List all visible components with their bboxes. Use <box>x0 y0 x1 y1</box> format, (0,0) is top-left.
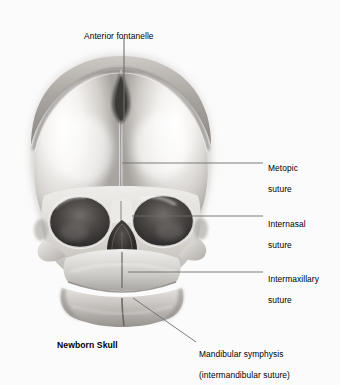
frontal-eminence-left <box>55 116 113 184</box>
label-intermaxillary-suture: Intermaxillary suture <box>268 263 319 316</box>
frontal-eminence-right <box>133 114 187 180</box>
label-internasal-suture: Internasal suture <box>268 208 306 261</box>
label-intermaxillary-suture-line2: suture <box>268 295 319 306</box>
label-anterior-fontanelle-line1: Anterior fontanelle <box>84 31 154 41</box>
orbit-right-inner-light <box>156 222 184 240</box>
orbit-left-inner-light <box>60 223 88 241</box>
label-intermaxillary-suture-line1: Intermaxillary <box>268 274 319 285</box>
label-internasal-suture-line1: Internasal <box>268 219 306 230</box>
label-metopic-suture: Metopic suture <box>268 152 298 205</box>
temporal-left <box>34 219 48 241</box>
newborn-skull-figure: Anterior fontanelle Metopic suture Inter… <box>0 0 340 385</box>
temporal-right <box>194 218 208 240</box>
label-metopic-suture-line1: Metopic <box>268 163 298 174</box>
label-internasal-suture-line2: suture <box>268 240 306 251</box>
label-mandibular-symphysis-line1: Mandibular symphysis <box>199 349 290 360</box>
label-metopic-suture-line2: suture <box>268 184 298 195</box>
figure-caption: Newborn Skull <box>57 340 118 351</box>
label-mandibular-symphysis-line2: (intermandibular suture) <box>199 370 290 381</box>
label-anterior-fontanelle: Anterior fontanelle <box>84 20 154 41</box>
label-mandibular-symphysis: Mandibular symphysis (intermandibular su… <box>199 338 290 385</box>
